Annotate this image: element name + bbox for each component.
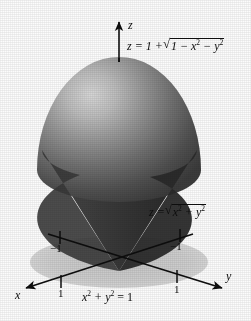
cone-eq-exp-b: 2 xyxy=(201,204,205,213)
tick-label-y-one: 1 xyxy=(174,284,180,295)
math-figure: z x y −1 −1 1 1 z = 1 +1 − x2 − y2 z =x2… xyxy=(0,0,251,321)
sphere-equation-label: z = 1 +1 − x2 − y2 xyxy=(127,38,224,53)
circle-eq-c: = 1 xyxy=(114,290,133,304)
y-axis-label: y xyxy=(226,270,231,282)
z-axis-label: z xyxy=(128,19,133,31)
cone-eq-radicand-b: + y xyxy=(182,205,201,219)
sphere-eq-radicand-b: − y xyxy=(200,39,219,53)
cone-eq-lhs: z = xyxy=(149,205,165,219)
circle-eq-b: + y xyxy=(91,290,110,304)
sphere-eq-exp-b: 2 xyxy=(220,38,224,47)
circle-equation-label: x2 + y2 = 1 xyxy=(82,290,133,303)
tick-label-y-negative-one: −1 xyxy=(170,241,182,252)
x-axis-label: x xyxy=(15,289,20,301)
cone-equation-label: z =x2 + y2 xyxy=(149,204,206,219)
tick-label-x-one: 1 xyxy=(58,288,64,299)
sphere-eq-radicand-a: 1 − x xyxy=(171,39,196,53)
tick-label-x-negative-one: −1 xyxy=(50,243,62,254)
sphere-eq-lhs: z = 1 + xyxy=(127,39,163,53)
